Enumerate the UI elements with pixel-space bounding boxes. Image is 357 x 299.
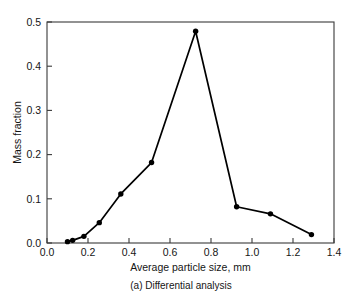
x-tick-label-7: 1.4 (327, 246, 342, 258)
figure-container: 0.00.20.40.60.81.01.21.4 0.00.10.20.30.4… (0, 0, 357, 299)
x-axis-label: Average particle size, mm (130, 261, 251, 273)
data-point-3 (97, 220, 102, 225)
y-tick-label-1: 0.1 (26, 193, 41, 205)
data-point-2 (81, 234, 86, 239)
y-tick-label-5: 0.5 (26, 16, 41, 28)
x-tick-label-3: 0.6 (163, 246, 178, 258)
data-point-7 (234, 204, 239, 209)
data-point-0 (65, 239, 70, 244)
data-point-6 (193, 29, 198, 34)
x-tick-label-4: 0.8 (204, 246, 219, 258)
x-tick-label-6: 1.2 (286, 246, 301, 258)
x-tick-label-0: 0.0 (40, 246, 55, 258)
x-tick-label-5: 1.0 (245, 246, 260, 258)
differential-analysis-chart: 0.00.20.40.60.81.01.21.4 0.00.10.20.30.4… (0, 0, 357, 299)
x-tick-label-2: 0.4 (122, 246, 137, 258)
y-tick-label-3: 0.3 (26, 104, 41, 116)
y-tick-label-4: 0.4 (26, 60, 41, 72)
y-axis-label: Mass fraction (11, 101, 23, 164)
data-point-1 (70, 238, 75, 243)
data-point-9 (309, 232, 314, 237)
data-point-4 (118, 191, 123, 196)
data-point-8 (268, 211, 273, 216)
x-tick-label-1: 0.2 (81, 246, 96, 258)
y-tick-label-2: 0.2 (26, 148, 41, 160)
data-point-5 (149, 160, 154, 165)
y-tick-label-0: 0.0 (26, 237, 41, 249)
figure-caption: (a) Differential analysis (130, 280, 232, 291)
